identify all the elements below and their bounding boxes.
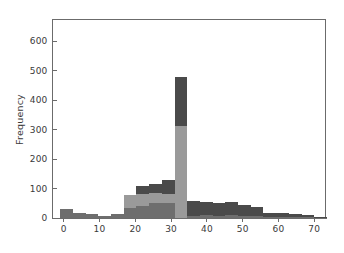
histogram-bar xyxy=(73,213,86,218)
histogram-bar-segment-lower xyxy=(124,208,137,218)
y-axis-tick-label: 600 xyxy=(30,34,48,48)
histogram-bar-segment-lower xyxy=(213,216,226,218)
histogram-bar-segment-lower xyxy=(86,214,99,218)
y-axis-tick-label: 200 xyxy=(30,152,48,166)
y-axis-tick-mark xyxy=(53,100,57,101)
y-axis-tick-mark xyxy=(53,70,57,71)
histogram-bar-segment-lower xyxy=(136,206,149,218)
histogram-bar xyxy=(238,205,251,218)
x-axis-tick-label: 40 xyxy=(201,223,213,235)
histogram-bar-segment-lower xyxy=(187,216,200,218)
histogram-bar xyxy=(314,217,327,218)
bar-series-container xyxy=(53,20,325,218)
x-axis-tick-mark xyxy=(63,218,64,222)
x-axis-tick-mark xyxy=(171,218,172,222)
histogram-bar xyxy=(86,214,99,218)
histogram-bar-segment-middle xyxy=(175,126,188,218)
histogram-bar-segment-lower xyxy=(238,216,251,218)
histogram-bar xyxy=(124,195,137,218)
histogram-bar xyxy=(60,209,73,218)
histogram-bar-segment-middle xyxy=(136,194,149,205)
histogram-bar-segment-lower xyxy=(263,217,276,218)
y-axis-tick-mark xyxy=(53,218,57,219)
x-axis-tick-label: 60 xyxy=(273,223,285,235)
x-axis-tick-mark xyxy=(135,218,136,222)
histogram-bar xyxy=(225,202,238,218)
histogram-bar-segment-upper xyxy=(213,203,226,215)
histogram-figure: Frequency 010020030040050060001020304050… xyxy=(0,0,344,253)
x-axis-tick-mark xyxy=(99,218,100,222)
x-axis-tick-label: 20 xyxy=(129,223,141,235)
histogram-bar-segment-upper xyxy=(225,202,238,215)
histogram-bar-segment-upper xyxy=(175,77,188,126)
histogram-bar-segment-lower xyxy=(251,216,264,218)
histogram-bar xyxy=(187,201,200,218)
histogram-bar-segment-upper xyxy=(187,201,200,217)
histogram-bar-segment-lower xyxy=(302,217,315,218)
y-axis-tick-label: 400 xyxy=(30,93,48,107)
histogram-bar xyxy=(200,202,213,218)
y-axis-title: Frequency xyxy=(12,19,26,219)
y-axis-tick-label: 300 xyxy=(30,123,48,137)
histogram-bar-segment-middle xyxy=(162,194,175,203)
x-axis-tick-mark xyxy=(242,218,243,222)
histogram-bar-segment-lower xyxy=(111,214,124,218)
y-axis-tick-mark xyxy=(53,159,57,160)
histogram-bar xyxy=(98,216,111,218)
histogram-bar-segment-lower xyxy=(149,203,162,218)
histogram-bar-segment-lower xyxy=(60,209,73,218)
histogram-bar-segment-lower xyxy=(225,215,238,218)
x-axis-tick-mark xyxy=(278,218,279,222)
x-axis-tick-label: 50 xyxy=(237,223,249,235)
histogram-bar xyxy=(111,214,124,218)
histogram-bar xyxy=(251,207,264,218)
histogram-bar-segment-upper xyxy=(200,202,213,215)
x-axis-tick-label: 10 xyxy=(94,223,106,235)
y-axis-tick-mark xyxy=(53,129,57,130)
histogram-bar-segment-upper xyxy=(136,186,149,194)
histogram-bar-segment-lower xyxy=(162,203,175,218)
histogram-bar-segment-upper xyxy=(162,180,175,194)
histogram-bar-segment-upper xyxy=(251,207,264,216)
histogram-bar xyxy=(136,186,149,218)
y-axis-tick-label: 0 xyxy=(42,211,48,225)
histogram-bar-segment-lower xyxy=(98,216,111,218)
x-axis-tick-mark xyxy=(314,218,315,222)
histogram-bar xyxy=(175,77,188,218)
y-axis-tick-label: 100 xyxy=(30,182,48,196)
y-axis-tick-label: 500 xyxy=(30,64,48,78)
x-axis-tick-label: 0 xyxy=(61,223,67,235)
histogram-bar-segment-upper xyxy=(149,184,162,193)
histogram-bar xyxy=(162,180,175,218)
histogram-bar xyxy=(289,214,302,218)
histogram-bar-segment-upper xyxy=(238,205,251,215)
histogram-bar-segment-middle xyxy=(149,193,162,203)
y-axis-tick-mark xyxy=(53,188,57,189)
histogram-bar xyxy=(213,203,226,218)
histogram-bar xyxy=(302,215,315,218)
x-axis-tick-label: 30 xyxy=(165,223,177,235)
plot-area: 0100200300400500600010203040506070 xyxy=(52,19,326,219)
histogram-bar xyxy=(149,184,162,218)
histogram-bar-segment-lower xyxy=(289,217,302,218)
x-axis-tick-mark xyxy=(206,218,207,222)
x-axis-tick-label: 70 xyxy=(308,223,320,235)
y-axis-title-text: Frequency xyxy=(14,94,25,145)
histogram-bar-segment-lower xyxy=(73,213,86,218)
y-axis-tick-mark xyxy=(53,41,57,42)
histogram-bar-segment-middle xyxy=(124,195,137,208)
histogram-bar xyxy=(263,213,276,218)
